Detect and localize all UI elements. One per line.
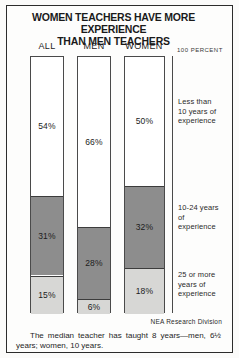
scale-caption: 100 PERCENT xyxy=(177,47,223,53)
bar-men-segment-under10: 66% xyxy=(78,57,110,227)
annotation-under10-line-1: Less than xyxy=(178,97,216,107)
column-header-men: MEN xyxy=(77,41,111,51)
bar-women-label-under10: 50% xyxy=(136,116,154,126)
bar-men-label-under10: 66% xyxy=(85,137,103,147)
annotation-under10-line-2: 10 years of xyxy=(178,107,216,117)
bar-men-segment-25plus: 6% xyxy=(78,299,110,314)
chart-title-line-1: WOMEN TEACHERS HAVE MORE EXPERIENCE xyxy=(32,11,195,35)
annotation-under10: Less than 10 years of experience xyxy=(178,97,216,126)
footnote-line-2: years; women, 10 years. xyxy=(16,341,103,350)
annotation-10to24: 10-24 years of experience xyxy=(178,203,219,232)
annotation-25plus-line-2: years of xyxy=(178,280,216,290)
bar-all: 54% 31% 15% xyxy=(30,56,64,313)
annotation-10to24-line-3: experience xyxy=(178,222,219,232)
bar-all-segment-10to24: 31% xyxy=(31,196,63,276)
bar-women-segment-10to24: 32% xyxy=(125,186,164,268)
annotation-25plus-line-3: experience xyxy=(178,289,216,299)
annotation-25plus-line-1: 25 or more xyxy=(178,270,216,280)
scale-axis-line xyxy=(172,56,173,313)
bar-men-label-25plus: 6% xyxy=(88,302,101,312)
source-credit: NEA Research Division xyxy=(110,318,222,325)
bar-women-label-10to24: 32% xyxy=(136,222,154,232)
bar-all-label-25plus: 15% xyxy=(38,290,56,300)
column-header-women: WOMEN xyxy=(122,41,166,51)
annotation-under10-line-3: experience xyxy=(178,116,216,126)
bar-men-segment-10to24: 28% xyxy=(78,227,110,299)
bar-women-label-25plus: 18% xyxy=(136,286,154,296)
footnote-line-1: The median teacher has taught 8 years—me… xyxy=(16,331,221,340)
annotation-25plus: 25 or more years of experience xyxy=(178,270,216,299)
column-header-all: ALL xyxy=(30,41,64,51)
footnote: The median teacher has taught 8 years—me… xyxy=(16,331,221,351)
annotation-10to24-line-2: of xyxy=(178,213,219,223)
bar-all-label-under10: 54% xyxy=(38,121,56,131)
bar-women-segment-under10: 50% xyxy=(125,57,164,186)
bar-men: 66% 28% 6% xyxy=(77,56,111,313)
chart-figure: WOMEN TEACHERS HAVE MORE EXPERIENCE THAN… xyxy=(0,0,239,358)
bar-all-label-10to24: 31% xyxy=(38,231,56,241)
bar-women-segment-25plus: 18% xyxy=(125,268,164,314)
bar-all-segment-under10: 54% xyxy=(31,57,63,196)
annotation-10to24-line-1: 10-24 years xyxy=(178,203,219,213)
bar-men-label-10to24: 28% xyxy=(85,258,103,268)
bar-women: 50% 32% 18% xyxy=(124,56,165,313)
bar-all-segment-25plus: 15% xyxy=(31,276,63,315)
